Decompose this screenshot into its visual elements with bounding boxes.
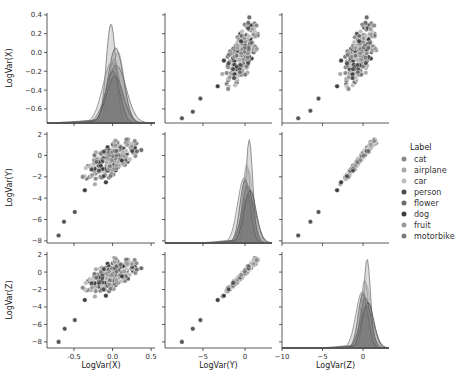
y-tick-label: 0 bbox=[38, 152, 42, 160]
x-axis-label: LogVar(X) bbox=[81, 361, 120, 370]
legend-marker-icon bbox=[402, 223, 407, 228]
y-tick-label: −8 bbox=[32, 338, 42, 346]
x-tick-label: −10 bbox=[275, 353, 290, 361]
legend-marker-icon bbox=[402, 179, 407, 184]
subplot-1-2 bbox=[279, 132, 389, 246]
legend-item-flower: flower bbox=[414, 199, 439, 208]
legend-title: Label bbox=[410, 143, 432, 152]
subplot-0-0: 0.40.20.0−0.2−0.4−0.6 bbox=[25, 11, 155, 126]
pairplot-canvas: 0.40.20.0−0.2−0.4−0.620−2−4−6−8-0.50.00.… bbox=[0, 0, 467, 386]
subplot-1-1 bbox=[162, 132, 272, 246]
subplot-2-1: −50 bbox=[162, 252, 272, 361]
x-tick-label: 0.5 bbox=[146, 353, 157, 361]
legend-marker-icon bbox=[402, 190, 407, 195]
y-tick-label: 0.0 bbox=[31, 49, 42, 57]
y-tick-label: −0.2 bbox=[25, 68, 42, 76]
subplot-0-1 bbox=[162, 13, 272, 126]
y-tick-label: −6 bbox=[32, 321, 43, 329]
y-tick-label: −0.4 bbox=[25, 87, 43, 95]
x-tick-label: −5 bbox=[317, 353, 327, 361]
legend-marker-icon bbox=[402, 201, 407, 206]
y-axis-label: LogVar(Y) bbox=[5, 168, 14, 206]
legend-item-motorbike: motorbike bbox=[414, 232, 455, 241]
legend-item-dog: dog bbox=[414, 210, 429, 219]
y-tick-label: 0.2 bbox=[31, 30, 42, 38]
legend-item-cat: cat bbox=[414, 155, 426, 164]
subplot-0-2 bbox=[279, 13, 389, 126]
x-tick-label: -0.5 bbox=[67, 353, 81, 361]
legend-item-car: car bbox=[414, 177, 427, 186]
legend-marker-icon bbox=[402, 212, 407, 217]
y-tick-label: 0.4 bbox=[31, 11, 43, 19]
y-tick-label: 0 bbox=[38, 269, 42, 277]
legend-marker-icon bbox=[402, 168, 407, 173]
y-axis-label: LogVar(Z) bbox=[5, 280, 14, 319]
legend-marker-icon bbox=[402, 157, 407, 162]
legend-item-airplane: airplane bbox=[414, 166, 447, 175]
y-tick-label: −4 bbox=[32, 303, 43, 311]
x-tick-label: 0 bbox=[243, 353, 247, 361]
x-tick-label: 0 bbox=[361, 353, 365, 361]
x-axis-label: LogVar(Z) bbox=[316, 361, 355, 370]
legend-marker-icon bbox=[402, 234, 407, 239]
y-axis-label: LogVar(X) bbox=[5, 48, 14, 87]
subplot-1-0: 20−2−4−6−8 bbox=[32, 131, 155, 246]
y-tick-label: 2 bbox=[38, 251, 42, 259]
x-axis-label: LogVar(Y) bbox=[199, 361, 237, 370]
legend-item-fruit: fruit bbox=[414, 221, 431, 230]
subplot-2-2: −10−50 bbox=[275, 252, 389, 361]
y-tick-label: −2 bbox=[32, 173, 42, 181]
pairplot-figure: 0.40.20.0−0.2−0.4−0.620−2−4−6−8-0.50.00.… bbox=[0, 0, 467, 386]
y-tick-label: −0.6 bbox=[25, 105, 43, 113]
y-tick-label: −6 bbox=[32, 216, 43, 224]
legend-item-person: person bbox=[414, 188, 441, 197]
y-tick-label: −2 bbox=[32, 286, 42, 294]
x-tick-label: −5 bbox=[198, 353, 208, 361]
y-tick-label: −8 bbox=[32, 237, 42, 245]
y-tick-label: −4 bbox=[32, 195, 43, 203]
legend: Labelcatairplanecarpersonflowerdogfruitm… bbox=[402, 143, 455, 241]
y-tick-label: 2 bbox=[38, 131, 42, 139]
x-tick-label: 0.0 bbox=[107, 353, 118, 361]
subplot-2-0: -0.50.00.520−2−4−6−8 bbox=[32, 251, 157, 361]
